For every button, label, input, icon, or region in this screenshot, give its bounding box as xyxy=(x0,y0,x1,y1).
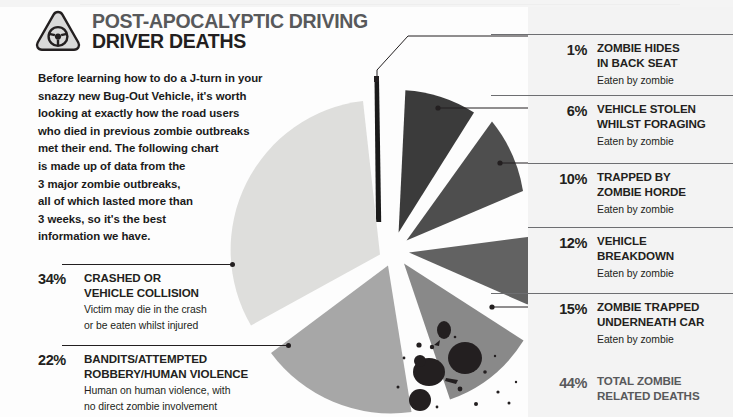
intro-line: 3 weeks, so it's the best xyxy=(38,211,300,229)
intro-line: met their end. The following chart xyxy=(38,140,300,158)
row-separator xyxy=(491,293,733,294)
row-subtext: Eaten by zombie xyxy=(597,73,680,88)
top-band-rule xyxy=(80,4,680,5)
callout-headline: CRASHED OR xyxy=(84,271,207,286)
row-headline: ZOMBIE HORDE xyxy=(597,185,686,200)
row-separator xyxy=(528,227,733,228)
row-percent: 10% xyxy=(543,171,587,187)
row-headline: WHILST FORAGING xyxy=(597,117,706,132)
callout-headline: BANDITS/ATTEMPTED xyxy=(84,352,248,367)
row-percent: 15% xyxy=(543,301,587,317)
intro-line: looking at exactly how the road users xyxy=(38,105,300,123)
callout-subtext: or be eaten whilst injured xyxy=(84,318,207,334)
row-subtext: Eaten by zombie xyxy=(597,332,704,347)
row-separator xyxy=(491,34,733,35)
page-title-line1: POST-APOCALYPTIC DRIVING xyxy=(92,11,368,31)
row-headline: RELATED DEATHS xyxy=(597,389,700,404)
intro-line: Before learning how to do a J-turn in yo… xyxy=(38,70,300,88)
row-percent: 1% xyxy=(543,42,587,58)
row-headline: VEHICLE STOLEN xyxy=(597,102,706,117)
row-headline: IN BACK SEAT xyxy=(597,56,680,71)
leader-dot-15pct xyxy=(489,304,494,309)
row-separator xyxy=(491,95,733,96)
leader-dot-34pct xyxy=(230,262,235,267)
row-percent: 6% xyxy=(543,103,587,119)
leader-dot-10pct xyxy=(497,160,502,165)
intro-line: information we have. xyxy=(38,228,300,246)
infographic-page: POST-APOCALYPTIC DRIVING DRIVER DEATHS B… xyxy=(0,0,733,417)
callout-headline: ROBBERY/HUMAN VIOLENCE xyxy=(84,367,248,382)
top-decorative-band xyxy=(0,0,733,7)
pie-leader-dots xyxy=(374,76,534,310)
row-headline: ZOMBIE TRAPPED xyxy=(597,300,704,315)
pie-slice-bandits-robbery-human-violence xyxy=(271,266,412,414)
pie-slice-zombie-trapped-underneath-car xyxy=(404,264,524,400)
callout-subtext: no direct zombie involvement xyxy=(84,399,248,415)
pie-slice-trapped-by-zombie-horde xyxy=(407,122,524,241)
leader-dot-1pct xyxy=(374,76,379,82)
row-subtext: Eaten by zombie xyxy=(597,266,674,281)
row-headline: VEHICLE xyxy=(597,234,674,249)
leader-line-34pct xyxy=(62,264,232,265)
row-body: TRAPPED BY ZOMBIE HORDE Eaten by zombie xyxy=(597,170,686,217)
header-titles: POST-APOCALYPTIC DRIVING DRIVER DEATHS xyxy=(92,9,368,52)
intro-line: all of which lasted more than xyxy=(38,193,300,211)
row-headline: UNDERNEATH CAR xyxy=(597,315,704,330)
intro-line: 3 major zombie outbreaks, xyxy=(38,176,300,194)
row-body: VEHICLE BREAKDOWN Eaten by zombie xyxy=(597,234,674,281)
callout-headline: VEHICLE COLLISION xyxy=(84,286,207,301)
callout-percent: 34% xyxy=(38,271,66,287)
callout-subtext: Human on human violence, with xyxy=(84,383,248,399)
intro-paragraph: Before learning how to do a J-turn in yo… xyxy=(38,70,300,246)
intro-line: who died in previous zombie outbreaks xyxy=(38,123,300,141)
row-body: ZOMBIE TRAPPED UNDERNEATH CAR Eaten by z… xyxy=(597,300,704,347)
row-body: VEHICLE STOLEN WHILST FORAGING Eaten by … xyxy=(597,102,706,149)
leader-line-22pct xyxy=(62,345,288,346)
row-percent: 44% xyxy=(543,375,587,391)
pie-slice-vehicle-stolen-whilst-foraging xyxy=(399,90,474,232)
callout-subtext: Victim may die in the crash xyxy=(84,302,207,318)
row-headline: ZOMBIE HIDES xyxy=(597,41,680,56)
row-headline: TOTAL ZOMBIE xyxy=(597,374,700,389)
row-subtext: Eaten by zombie xyxy=(597,202,686,217)
row-separator xyxy=(528,163,733,164)
callout-body: BANDITS/ATTEMPTED ROBBERY/HUMAN VIOLENCE… xyxy=(84,352,248,414)
leader-dot-22pct xyxy=(286,343,291,348)
page-header: POST-APOCALYPTIC DRIVING DRIVER DEATHS xyxy=(34,9,368,53)
blood-splatter-decoration xyxy=(397,321,518,411)
page-title-line2: DRIVER DEATHS xyxy=(92,31,368,52)
row-headline: TRAPPED BY xyxy=(597,170,686,185)
intro-line: snazzy new Bug-Out Vehicle, it's worth xyxy=(38,88,300,106)
callout-body: CRASHED OR VEHICLE COLLISION Victim may … xyxy=(84,271,207,333)
row-body: TOTAL ZOMBIE RELATED DEATHS xyxy=(597,374,700,403)
row-percent: 12% xyxy=(543,235,587,251)
leader-dot-6pct xyxy=(435,105,440,110)
row-subtext: Eaten by zombie xyxy=(597,134,706,149)
pie-slice-zombie-hides-in-back-seat xyxy=(375,78,382,222)
row-headline: BREAKDOWN xyxy=(597,249,674,264)
callout-percent: 22% xyxy=(38,352,66,368)
row-body: ZOMBIE HIDES IN BACK SEAT Eaten by zombi… xyxy=(597,41,680,88)
intro-line: is made up of data from the xyxy=(38,158,300,176)
steering-wheel-warning-triangle-icon xyxy=(34,9,82,53)
